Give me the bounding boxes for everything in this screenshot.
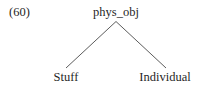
tree-node-root: phys_obj	[88, 5, 144, 19]
branch-left	[66, 22, 116, 69]
figure-container: (60) phys_obj Stuff Individual	[0, 0, 204, 89]
tree-node-leaf-individual: Individual	[134, 70, 196, 84]
branch-right	[116, 22, 166, 69]
tree-node-leaf-stuff: Stuff	[42, 70, 90, 84]
